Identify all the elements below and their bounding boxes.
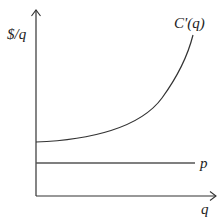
- marginal-cost-curve: [36, 35, 193, 142]
- y-axis: [32, 10, 41, 196]
- price-line-label: p: [199, 155, 208, 171]
- x-axis: [36, 192, 216, 201]
- y-axis-label: $/q: [7, 26, 27, 42]
- x-axis-label: q: [201, 201, 209, 217]
- marginal-cost-label: C'(q): [174, 15, 205, 32]
- marginal-cost-diagram: $/q q p C'(q): [0, 0, 222, 221]
